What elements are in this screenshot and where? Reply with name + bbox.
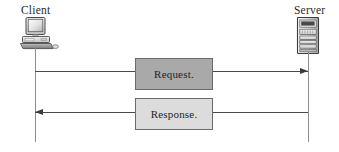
- client-actor-label: Client: [21, 4, 50, 16]
- request-message-label: Request.: [154, 68, 194, 80]
- response-message-label: Response.: [151, 108, 198, 120]
- server-lifeline: [308, 52, 309, 142]
- request-arrow-line-right: [213, 71, 308, 72]
- response-arrow-line-left: [35, 112, 145, 113]
- response-arrowhead-icon: [35, 109, 43, 115]
- request-arrowhead-icon: [300, 68, 308, 74]
- server-actor-label: Server: [294, 4, 325, 16]
- client-lifeline: [35, 48, 36, 142]
- response-message-box: Response.: [135, 98, 213, 130]
- response-arrow-line-right: [213, 112, 308, 113]
- request-arrow-line-left: [35, 71, 145, 72]
- client-server-sequence-diagram: Client: [0, 0, 339, 152]
- request-message-box: Request.: [135, 58, 213, 90]
- tower-server-icon: [294, 17, 322, 55]
- desktop-computer-icon: [17, 17, 59, 50]
